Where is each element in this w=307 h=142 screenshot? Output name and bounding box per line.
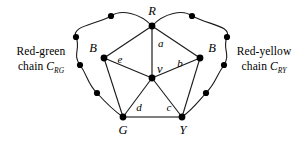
vertex-R (149, 23, 156, 30)
chain-node-right-2 (224, 34, 230, 40)
chain-node-left-4 (94, 90, 100, 96)
vertex-B-left (101, 55, 108, 62)
left-chain-subscript: RG (54, 66, 64, 75)
edge-Bleft-G (104, 58, 123, 117)
left-chain-caption-line1: Red-green (3, 44, 79, 59)
edge-R-Bleft (104, 26, 152, 58)
chain-node-right-1 (189, 13, 195, 19)
vertex-label-B-left: B (89, 41, 97, 55)
vertex-label-B-right: B (208, 41, 216, 55)
edge-label-c: c (167, 101, 172, 113)
right-chain-caption-line1: Red-yellow (224, 44, 304, 59)
left-chain-caption-line2: chain CRG (3, 59, 79, 78)
edge-label-a: a (158, 37, 164, 49)
right-chain-caption-prefix: chain (242, 60, 270, 72)
chain-node-left-2 (73, 34, 79, 40)
right-chain-subscript: RY (278, 66, 287, 75)
vertex-B-right (197, 55, 204, 62)
kempe-chain-figure: R B B v G Y a b c d e Red-green chain CR… (0, 0, 307, 142)
edge-Bright-Y (182, 58, 200, 117)
vertex-G (120, 114, 127, 121)
vertex-label-Y: Y (180, 123, 189, 137)
edge-Bleft-v (104, 58, 152, 78)
right-chain-caption-line2: chain CRY (224, 59, 304, 78)
chain-node-left-1 (108, 13, 114, 19)
vertex-Y (179, 114, 186, 121)
vertex-label-G: G (118, 123, 127, 137)
edge-label-e: e (118, 53, 123, 65)
right-chain-caption: Red-yellow chain CRY (224, 44, 304, 78)
left-chain-caption-prefix: chain (18, 60, 46, 72)
edge-label-d: d (136, 101, 142, 113)
chain-node-right-4 (203, 90, 209, 96)
left-chain-caption: Red-green chain CRG (3, 44, 79, 78)
right-chain-arc (152, 13, 228, 117)
vertex-label-v: v (157, 62, 163, 76)
vertex-v (149, 75, 156, 82)
left-chain-symbol: C (46, 60, 54, 72)
vertex-label-R: R (147, 4, 156, 18)
right-chain-symbol: C (270, 60, 278, 72)
edge-label-b: b (177, 57, 183, 69)
